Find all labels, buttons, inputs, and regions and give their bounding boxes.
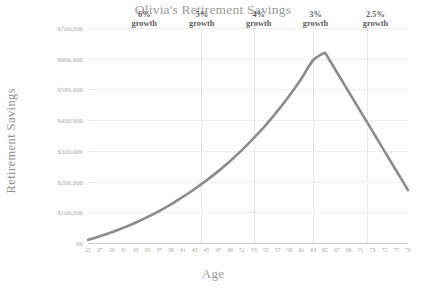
x-axis-tick-label: 29 — [109, 247, 114, 253]
x-axis-tick-label: 45 — [204, 247, 209, 253]
chart-page: Olivia's Retirement Savings Retirement S… — [0, 0, 426, 297]
x-axis-tick-label: 65 — [322, 247, 327, 253]
y-axis-tick-label: $700,000 — [57, 25, 83, 32]
x-axis-tick-label: 77 — [393, 247, 398, 253]
growth-rate-value: 6% — [132, 10, 157, 19]
growth-rate-annotation: 5%growth — [189, 10, 214, 29]
growth-rate-value: 5% — [189, 10, 214, 19]
y-axis-tick-label: $400,000 — [57, 118, 83, 125]
x-axis-label: Age — [0, 266, 426, 282]
y-axis-tick-label: $600,000 — [57, 56, 83, 63]
savings-line-path — [88, 53, 408, 240]
x-axis-tick-label: 25 — [85, 247, 90, 253]
x-axis-tick-label: 27 — [97, 247, 102, 253]
y-axis-tick-label: $500,000 — [57, 87, 83, 94]
plot-area: $0$100,000$200,000$300,000$400,000$500,0… — [88, 28, 408, 243]
x-axis-tick-label: 69 — [346, 247, 351, 253]
gridline: $0 — [88, 243, 408, 244]
x-axis-tick-label: 49 — [228, 247, 233, 253]
y-axis-tick-label: $0 — [76, 240, 83, 247]
y-axis-tick-label: $100,000 — [57, 210, 83, 217]
x-axis-ticks-group: 2527293133353739414345474951535557596163… — [88, 247, 408, 259]
growth-rate-annotation: 6%growth — [132, 10, 157, 29]
y-axis-tick-label: $300,000 — [57, 148, 83, 155]
x-axis-tick-label: 59 — [287, 247, 292, 253]
x-axis-tick-label: 35 — [145, 247, 150, 253]
x-axis-tick-label: 43 — [192, 247, 197, 253]
growth-rate-annotation: 4%growth — [246, 10, 271, 29]
growth-rate-annotation: 2.5%growth — [363, 10, 388, 29]
x-axis-tick-label: 63 — [310, 247, 315, 253]
x-axis-tick-label: 41 — [180, 247, 185, 253]
x-axis-tick-label: 75 — [382, 247, 387, 253]
x-axis-tick-label: 67 — [334, 247, 339, 253]
x-axis-tick-label: 31 — [121, 247, 126, 253]
x-axis-tick-label: 53 — [251, 247, 256, 253]
growth-rate-annotation: 3%growth — [303, 10, 328, 29]
x-axis-tick-label: 47 — [216, 247, 221, 253]
growth-rate-value: 4% — [246, 10, 271, 19]
x-axis-tick-label: 37 — [156, 247, 161, 253]
growth-rate-value: 3% — [303, 10, 328, 19]
x-axis-tick-label: 73 — [370, 247, 375, 253]
x-axis-tick-label: 79 — [405, 247, 410, 253]
x-axis-tick-label: 39 — [168, 247, 173, 253]
growth-rate-value: 2.5% — [363, 10, 388, 19]
x-axis-tick-label: 51 — [239, 247, 244, 253]
y-axis-tick-label: $200,000 — [57, 179, 83, 186]
x-axis-tick-label: 55 — [263, 247, 268, 253]
x-axis-tick-label: 33 — [133, 247, 138, 253]
savings-line-series — [88, 28, 408, 243]
y-axis-label: Retirement Savings — [4, 88, 28, 193]
x-axis-tick-label: 57 — [275, 247, 280, 253]
x-axis-tick-label: 71 — [358, 247, 363, 253]
x-axis-tick-label: 61 — [299, 247, 304, 253]
